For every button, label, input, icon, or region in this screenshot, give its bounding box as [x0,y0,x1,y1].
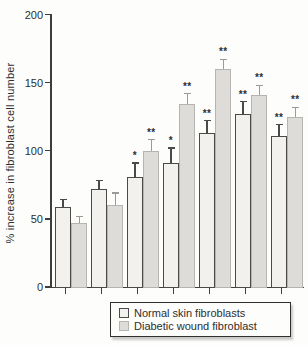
error-cap-normal-group2 [96,180,103,181]
y-tick-label-0: 0 [12,281,43,293]
error-bar-diabetic-group7 [295,107,296,117]
error-bar-diabetic-group3 [151,140,152,151]
significance-diabetic-group4: ** [176,82,198,92]
legend-item-normal: Normal skin fibroblasts [119,306,284,319]
error-cap-diabetic-group5 [220,59,227,60]
y-tick-200 [45,14,51,15]
error-cap-diabetic-group3 [148,139,155,140]
error-bar-normal-group1 [62,200,63,207]
legend: Normal skin fibroblasts Diabetic wound f… [110,302,291,337]
y-tick-label-50: 50 [12,213,43,225]
error-cap-diabetic-group2 [112,192,119,193]
x-tick-group-6 [245,288,246,294]
error-cap-diabetic-group1 [76,216,83,217]
bar-normal-group4 [163,163,179,288]
legend-swatch-normal-icon [119,308,129,318]
legend-item-diabetic: Diabetic wound fibroblast [119,319,284,332]
error-cap-normal-group6 [240,101,247,102]
error-bar-normal-group5 [206,121,207,133]
significance-diabetic-group7: ** [284,95,306,105]
bar-normal-group6 [235,114,251,288]
y-tick-100 [45,150,51,151]
error-bar-diabetic-group4 [187,94,188,105]
y-tick-label-200: 200 [12,9,43,21]
error-bar-normal-group4 [170,148,171,163]
error-bar-normal-group6 [242,102,243,114]
error-cap-diabetic-group6 [256,85,263,86]
fibroblast-bar-chart-figure: % increase in fibroblast cell number 050… [0,0,308,345]
bar-normal-group3 [127,177,143,288]
error-cap-normal-group1 [60,199,67,200]
bar-diabetic-group2 [107,205,123,288]
bar-normal-group2 [91,189,107,288]
error-cap-diabetic-group4 [184,93,191,94]
y-tick-150 [45,82,51,83]
error-bar-diabetic-group6 [259,85,260,95]
error-bar-normal-group7 [278,125,279,136]
legend-label-diabetic: Diabetic wound fibroblast [134,320,257,332]
significance-diabetic-group6: ** [248,73,270,83]
significance-diabetic-group3: ** [140,128,162,138]
error-bar-diabetic-group1 [79,216,80,223]
legend-swatch-diabetic-icon [119,321,129,331]
error-cap-normal-group5 [204,120,211,121]
significance-diabetic-group5: ** [212,47,234,57]
error-cap-normal-group3 [132,162,139,163]
bar-diabetic-group1 [71,223,87,288]
y-tick-50 [45,218,51,219]
error-cap-diabetic-group7 [292,107,299,108]
bar-normal-group7 [271,136,287,288]
y-tick-label-150: 150 [12,77,43,89]
y-tick-label-100: 100 [12,145,43,157]
error-bar-diabetic-group5 [223,59,224,69]
x-tick-group-3 [137,288,138,294]
bar-diabetic-group6 [251,95,267,288]
error-cap-normal-group7 [276,124,283,125]
x-tick-group-7 [281,288,282,294]
y-tick-0 [45,286,51,287]
bar-diabetic-group7 [287,117,303,288]
bar-diabetic-group5 [215,69,231,288]
error-cap-normal-group4 [168,147,175,148]
x-tick-group-5 [209,288,210,294]
error-bar-diabetic-group2 [115,193,116,205]
error-bar-normal-group3 [134,163,135,177]
bar-normal-group1 [55,207,71,288]
error-bar-normal-group2 [98,181,99,189]
bar-diabetic-group3 [143,151,159,288]
x-tick-group-1 [65,288,66,294]
x-tick-group-4 [173,288,174,294]
bar-diabetic-group4 [179,104,195,288]
bar-normal-group5 [199,133,215,288]
legend-label-normal: Normal skin fibroblasts [134,307,245,319]
x-tick-group-2 [101,288,102,294]
